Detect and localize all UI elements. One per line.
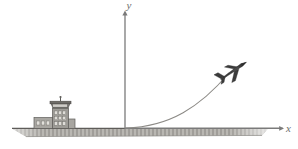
tower-window — [55, 111, 58, 114]
tower-window — [63, 111, 66, 114]
tower-window — [59, 122, 62, 125]
terminal-window — [37, 121, 40, 125]
figure-container: y x — [0, 0, 298, 149]
terminal-right-wing — [69, 119, 76, 129]
terminal-window — [41, 121, 44, 125]
tower-window — [63, 116, 66, 119]
y-axis-label: y — [126, 0, 132, 11]
tower-window — [59, 116, 62, 119]
tower-window — [59, 111, 62, 114]
takeoff-path — [126, 73, 229, 128]
takeoff-path-group — [126, 73, 229, 128]
tower-window — [55, 116, 58, 119]
tower-roof — [50, 101, 71, 104]
tower-antenna-tip — [59, 96, 61, 98]
tower-window — [63, 122, 66, 125]
terminal-window — [46, 121, 49, 125]
takeoff-diagram: y x — [0, 0, 298, 149]
y-axis-arrowhead — [122, 11, 127, 16]
tower-window — [55, 122, 58, 125]
control-tower — [34, 96, 75, 129]
ground-group — [12, 128, 283, 136]
x-axis-arrowhead — [279, 126, 284, 131]
tower-cab-glass — [53, 104, 67, 107]
x-axis-label: x — [285, 122, 291, 134]
y-axis: y — [122, 0, 131, 129]
